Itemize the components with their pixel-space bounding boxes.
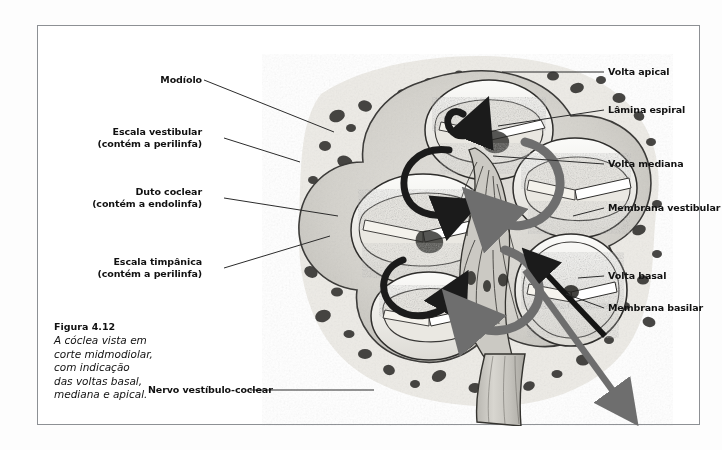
label-modiolo: Modíolo [84, 74, 202, 86]
label-escala-timpanica: Escala timpânica (contém a perilinfa) [64, 256, 202, 279]
label-lamina-espiral: Lâmina espiral [608, 104, 685, 116]
label-escala-vestibular: Escala vestibular (contém a perilinfa) [64, 126, 202, 149]
caption-body: A cóclea vista em corte midmodiolar, com… [54, 334, 204, 402]
label-duto-coclear: Duto coclear (contém a endolinfa) [64, 186, 202, 209]
figure-page: Volta apical Lâmina espiral Volta median… [0, 0, 722, 450]
figure-caption: Figura 4.12 A cóclea vista em corte midm… [54, 320, 204, 402]
caption-title: Figura 4.12 [54, 320, 204, 333]
label-volta-apical: Volta apical [608, 66, 669, 78]
vestibulocochlear-nerve-trunk [476, 354, 525, 426]
label-membrana-basilar: Membrana basilar [608, 302, 703, 314]
label-volta-mediana: Volta mediana [608, 158, 684, 170]
label-volta-basal: Volta basal [608, 270, 666, 282]
figure-frame: Volta apical Lâmina espiral Volta median… [37, 25, 700, 425]
label-membrana-vestibular: Membrana vestibular [608, 202, 720, 214]
